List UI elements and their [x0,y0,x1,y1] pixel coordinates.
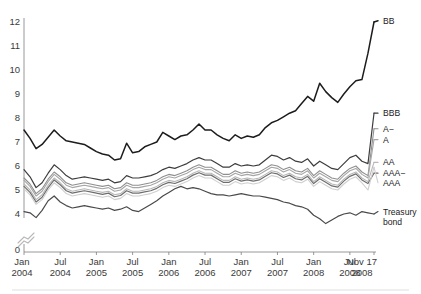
y-axis-tick-label: 6 [15,160,20,171]
x-axis-tick-label-month: Jul [271,256,283,267]
y-axis-tick-label: 4 [15,208,20,219]
series-label-aaa: AAA− [383,168,405,178]
y-axis-tick-label: 8 [15,112,20,123]
y-axis-tick-label: 9 [15,88,20,99]
x-axis-tick-label-month: Jan [161,256,176,267]
x-axis-tick-label-year: 2007 [267,267,288,278]
x-axis-tick-label-month: Jan [89,256,104,267]
x-axis-tick-label-year: 2006 [158,267,179,278]
x-axis-tick-label-month: Nov 17 [347,256,377,267]
series-line-a [24,140,374,196]
x-axis-tick-label-year: 2005 [122,267,143,278]
x-axis-tick-label-month: Jul [54,256,66,267]
x-axis-tick-label-year: 2005 [86,267,107,278]
x-axis-tick-label-year: 2008 [303,267,324,278]
series-line-bb [24,22,374,160]
x-axis-tick-label-month: Jul [127,256,139,267]
x-axis-tick-label-year: 2008 [351,267,372,278]
series-labels: BBBBBA−AAAAAA−AAATreasurybond [383,16,417,227]
series-label-bbb: BBB [383,108,400,118]
x-axis: Jan2004Jul2004Jan2005Jul2005Jan2006Jul20… [11,256,377,278]
x-axis-tick-label-month: Jan [306,256,321,267]
series-label-a: A− [383,124,394,134]
y-axis: 1211109876540 [9,16,20,255]
x-axis-tick-label-year: 2007 [231,267,252,278]
x-axis-tick-label-month: Jan [234,256,249,267]
series-label-bb: BB [383,16,395,26]
series-label-aa: AA [383,157,395,167]
series-leader-bb [374,21,378,22]
axis-lines [18,18,376,255]
series-lines [24,21,378,224]
x-axis-tick-label-month: Jan [14,256,29,267]
series-leader-aaa [374,167,378,183]
series-label-a: A [383,135,389,145]
y-axis-tick-label: 5 [15,184,20,195]
series-line-a [24,129,374,194]
series-label-treasury-bond: Treasury [383,207,417,217]
y-axis-tick-label: 12 [9,16,20,27]
y-axis-tick-label: 11 [10,40,20,51]
y-axis-tick-label: 7 [15,136,20,147]
series-leader-treasury-bond [374,212,378,214]
x-axis-tick-label-year: 2004 [11,267,32,278]
y-axis-tick-label: 10 [9,64,20,75]
chart-container: 1211109876540 BBBBBA−AAAAAA−AAATreasuryb… [0,0,421,294]
series-line-aaa [24,173,374,202]
series-line-aa [24,162,374,199]
series-label-treasury-bond-line2: bond [383,217,402,227]
bond-yield-line-chart: 1211109876540 BBBBBA−AAAAAA−AAATreasuryb… [0,0,421,294]
series-label-aaa: AAA [383,178,400,188]
x-axis-tick-label-year: 2006 [194,267,215,278]
x-axis-tick-label-year: 2004 [50,267,71,278]
axis-break-marker [18,233,34,247]
x-axis-tick-label-month: Jul [199,256,211,267]
